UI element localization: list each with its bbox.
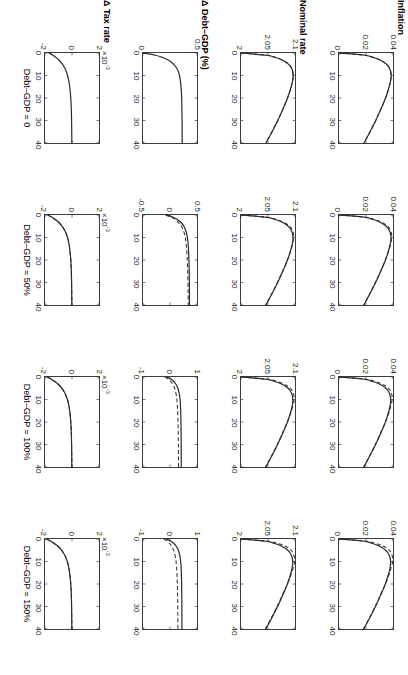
panel-r1-c2: 00.020.04010203040 — [314, 180, 402, 312]
axis-exponent-label: ×10-3 — [100, 213, 112, 232]
y-tick-label: 2.05 — [263, 34, 271, 50]
x-tick-label: 0 — [132, 51, 140, 55]
x-tick-label: 10 — [132, 234, 140, 243]
x-tick-label: 10 — [34, 396, 42, 405]
y-tick-label: 1 — [193, 370, 201, 374]
x-tick-label: 0 — [230, 375, 238, 379]
y-tick-label: -1 — [137, 529, 145, 536]
x-tick-label: 10 — [230, 234, 238, 243]
x-tick-label: 40 — [230, 627, 238, 636]
plot-canvas — [339, 53, 393, 143]
x-tick-label: 40 — [34, 627, 42, 636]
series-line-dashed — [46, 539, 72, 629]
plot-area: ×10-3-202010203040Debt–GDP = 100% — [44, 376, 100, 468]
plot-canvas — [143, 539, 197, 629]
series-line-dashed — [241, 539, 295, 629]
series-line-dashed — [48, 215, 72, 305]
axis-exponent-label: ×10-3 — [100, 51, 112, 70]
x-tick-label: 40 — [230, 141, 238, 150]
plot-canvas — [45, 53, 99, 143]
plot-area: ×10-3-202010203040Debt–GDP = 0 — [44, 52, 100, 144]
x-tick-label: 20 — [328, 581, 336, 590]
y-tick-label: 2 — [95, 208, 103, 212]
panel-r3-c1: 00.5010203040 — [118, 18, 206, 150]
y-tick-label: 2 — [235, 208, 243, 212]
panel-r4-c3: ×10-3-202010203040Debt–GDP = 100% — [20, 342, 108, 474]
x-tick-label: 40 — [34, 465, 42, 474]
x-tick-label: 30 — [132, 442, 140, 451]
y-tick-label: -0.5 — [137, 198, 145, 212]
panel-r1-c3: 00.020.04010203040 — [314, 342, 402, 474]
y-tick-label: 2 — [95, 46, 103, 50]
y-tick-label: 0.04 — [389, 520, 397, 536]
x-tick-label: 10 — [328, 396, 336, 405]
x-tick-label: 0 — [34, 375, 42, 379]
plot-canvas — [143, 377, 197, 467]
x-tick-label: 30 — [230, 604, 238, 613]
y-tick-label: 0 — [333, 532, 341, 536]
series-line-solid — [48, 215, 72, 305]
x-tick-label: 40 — [132, 303, 140, 312]
figure-rotation-container: InflationNominal rateΔ Debt–GDP (%)Δ Tax… — [0, 0, 408, 675]
y-tick-label: 2.05 — [263, 520, 271, 536]
y-tick-label: 0 — [67, 208, 75, 212]
plot-canvas — [143, 53, 197, 143]
x-tick-label: 40 — [328, 627, 336, 636]
x-tick-label: 20 — [132, 581, 140, 590]
panel-r2-c4: 22.052.1010203040 — [216, 504, 304, 636]
x-tick-label: 20 — [34, 581, 42, 590]
x-tick-label: 30 — [230, 118, 238, 127]
x-tick-label: 0 — [34, 537, 42, 541]
y-tick-label: 0 — [333, 208, 341, 212]
x-tick-label: 0 — [328, 537, 336, 541]
y-tick-label: 0 — [67, 532, 75, 536]
series-line-solid — [49, 53, 72, 143]
axis-exponent-label: ×10-3 — [100, 375, 112, 394]
x-tick-label: 30 — [328, 118, 336, 127]
x-tick-label: 10 — [328, 72, 336, 81]
x-tick-label: 10 — [230, 72, 238, 81]
x-tick-label: 20 — [132, 95, 140, 104]
x-tick-label: 40 — [34, 141, 42, 150]
x-tick-label: 20 — [34, 419, 42, 428]
x-tick-label: 30 — [328, 280, 336, 289]
x-tick-label: 0 — [132, 375, 140, 379]
column-label-2: Debt–GDP = 50% — [22, 224, 32, 296]
plot-canvas — [339, 377, 393, 467]
y-tick-label: 0 — [67, 46, 75, 50]
y-tick-label: 0.04 — [389, 34, 397, 50]
x-tick-label: 30 — [34, 604, 42, 613]
y-tick-label: 2.1 — [291, 525, 299, 536]
x-tick-label: 40 — [328, 303, 336, 312]
x-tick-label: 20 — [230, 95, 238, 104]
x-tick-label: 30 — [230, 280, 238, 289]
series-line-dashed — [339, 377, 392, 467]
panel-r3-c3: -101010203040 — [118, 342, 206, 474]
column-label-4: Debt–GDP = 150% — [22, 546, 32, 623]
y-tick-label: 2 — [235, 532, 243, 536]
y-tick-label: 0.02 — [361, 34, 369, 50]
x-tick-label: 0 — [328, 375, 336, 379]
x-tick-label: 0 — [34, 51, 42, 55]
plot-area: 22.052.1010203040 — [240, 376, 296, 468]
plot-canvas — [45, 215, 99, 305]
y-tick-label: 0.04 — [389, 358, 397, 374]
y-tick-label: 0 — [137, 46, 145, 50]
plot-area: -101010203040 — [142, 376, 198, 468]
panel-r1-c4: 00.020.04010203040 — [314, 504, 402, 636]
y-tick-label: 2 — [235, 46, 243, 50]
y-tick-label: 2.05 — [263, 358, 271, 374]
plot-area: 00.020.04010203040 — [338, 214, 394, 306]
x-tick-label: 10 — [328, 234, 336, 243]
x-tick-label: 20 — [34, 257, 42, 266]
series-line-solid — [339, 215, 391, 305]
x-tick-label: 20 — [328, 257, 336, 266]
series-line-dashed — [47, 377, 72, 467]
y-tick-label: 2.1 — [291, 363, 299, 374]
y-tick-label: 0 — [165, 532, 173, 536]
x-tick-label: 30 — [328, 604, 336, 613]
x-tick-label: 30 — [132, 604, 140, 613]
panel-r3-c2: -0.500.5010203040 — [118, 180, 206, 312]
series-line-solid — [143, 53, 182, 143]
plot-area: -101010203040 — [142, 538, 198, 630]
